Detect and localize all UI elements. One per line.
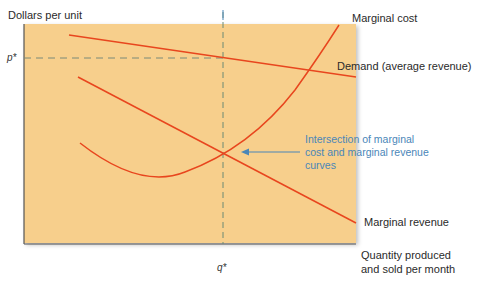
x-axis-label-line1: Quantity produced — [361, 249, 451, 262]
annotation-line3: curves — [305, 159, 336, 172]
annotation-line2: cost and marginal revenue — [305, 146, 429, 159]
x-axis-label-line2: and sold per month — [361, 263, 455, 276]
annotation-line1: Intersection of marginal — [305, 133, 414, 146]
mc-label: Marginal cost — [352, 12, 417, 25]
p-star-label: p* — [7, 52, 16, 63]
mr-label: Marginal revenue — [364, 216, 449, 229]
y-axis-label: Dollars per unit — [8, 9, 82, 22]
q-star-label: q* — [217, 262, 226, 273]
demand-label: Demand (average revenue) — [337, 60, 472, 73]
